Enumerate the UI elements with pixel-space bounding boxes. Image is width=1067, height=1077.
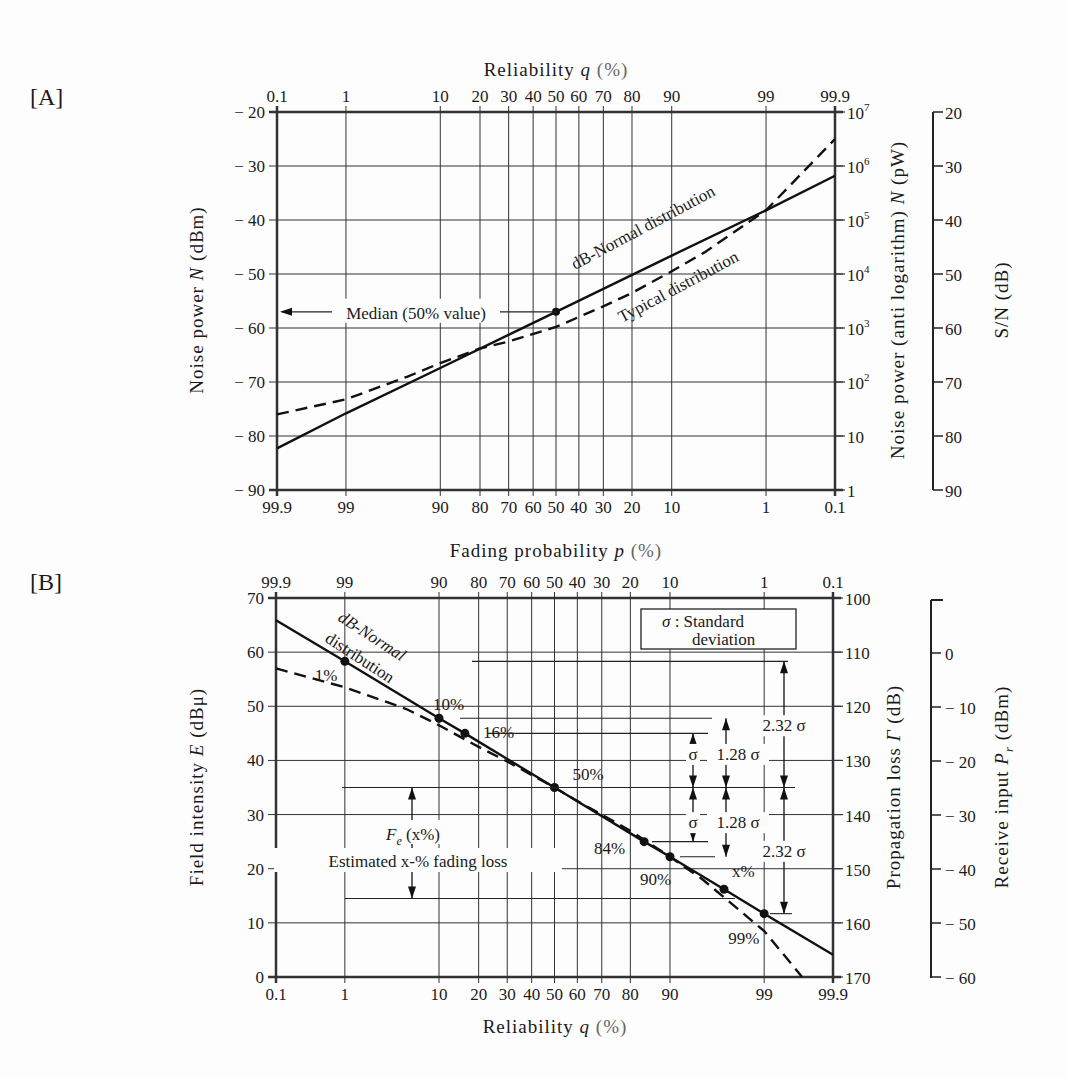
normal-curve-label: dB-Normal distribution bbox=[568, 181, 719, 273]
y-tick-right: 104 bbox=[847, 263, 870, 285]
chart-canvas: [A]0.111020304050607080909999.9Reliabili… bbox=[0, 0, 1067, 1077]
panel-b: [B]99.99990807060504030201010.10.1110203… bbox=[30, 569, 1016, 1038]
panel-a: [A]0.111020304050607080909999.9Reliabili… bbox=[30, 59, 1013, 562]
y-tick-left: − 50 bbox=[234, 265, 265, 284]
x-tick-top: 90 bbox=[663, 87, 680, 106]
y-axis-title-left: Field intensity E (dBμ) bbox=[186, 688, 208, 886]
arrow-icon bbox=[722, 718, 730, 730]
y-tick-pr: − 30 bbox=[945, 807, 976, 826]
marker-label: 84% bbox=[594, 839, 625, 858]
label-2.32-sigma-lower: 2.32 σ bbox=[762, 842, 805, 861]
label-sigma-lower: σ bbox=[688, 813, 697, 832]
y-tick-sn: 60 bbox=[945, 320, 962, 339]
y-tick-right: 106 bbox=[847, 155, 870, 177]
y-tick-right: 150 bbox=[845, 861, 871, 880]
y-axis-title-pr: Receive input Pr (dBm) bbox=[991, 686, 1016, 889]
x-tick-top: 10 bbox=[661, 573, 678, 592]
x-tick-bottom: 0.1 bbox=[265, 985, 286, 1004]
arrow-icon bbox=[408, 788, 416, 800]
y-tick-sn: 90 bbox=[945, 482, 962, 501]
marker-point bbox=[665, 852, 674, 861]
x-tick-bottom: 50 bbox=[548, 498, 565, 517]
x-tick-top: 30 bbox=[593, 573, 610, 592]
median-label: Median (50% value) bbox=[346, 304, 486, 323]
x-tick-top: 99 bbox=[758, 87, 775, 106]
marker-point bbox=[460, 729, 469, 738]
x-tick-bottom: 30 bbox=[595, 498, 612, 517]
arrow-icon bbox=[780, 902, 788, 914]
y-tick-sn: 80 bbox=[945, 428, 962, 447]
x-tick-top: 80 bbox=[623, 87, 640, 106]
marker-point bbox=[435, 714, 444, 723]
arrow-icon bbox=[780, 661, 788, 673]
y-tick-sn: 20 bbox=[945, 104, 962, 123]
marker-point bbox=[720, 885, 729, 894]
y-tick-right: 110 bbox=[845, 644, 870, 663]
marker-point bbox=[760, 909, 769, 918]
x-tick-top: 99 bbox=[336, 573, 353, 592]
x-tick-top: 1 bbox=[342, 87, 351, 106]
x-tick-bottom: 99 bbox=[756, 985, 773, 1004]
arrow-icon bbox=[722, 788, 730, 800]
y-tick-left: − 40 bbox=[234, 211, 265, 230]
y-tick-right: 1 bbox=[847, 482, 856, 501]
y-tick-right: 100 bbox=[845, 590, 871, 609]
y-tick-right: 105 bbox=[847, 209, 870, 231]
label-1.28-sigma-upper: 1.28 σ bbox=[716, 745, 759, 764]
arrow-icon bbox=[722, 776, 730, 788]
y-tick-left: 60 bbox=[247, 643, 264, 662]
x-tick-bottom: 99.9 bbox=[262, 498, 292, 517]
y-tick-right: 140 bbox=[845, 807, 871, 826]
x-tick-bottom: 20 bbox=[623, 498, 640, 517]
y-tick-left: − 70 bbox=[234, 373, 265, 392]
x-tick-top: 1 bbox=[760, 573, 769, 592]
fading-distribution-chart: [A]0.111020304050607080909999.9Reliabili… bbox=[0, 0, 1067, 1077]
y-tick-left: 40 bbox=[247, 751, 264, 770]
x-tick-top: 90 bbox=[431, 573, 448, 592]
y-axis-title-right: Noise power (anti logarithm) N (pW) bbox=[887, 141, 909, 459]
marker-point bbox=[640, 837, 649, 846]
x-tick-bottom: 40 bbox=[570, 498, 587, 517]
y-tick-right: 102 bbox=[847, 371, 870, 393]
label-2.32-sigma-upper: 2.32 σ bbox=[762, 716, 805, 735]
x-tick-top: 40 bbox=[525, 87, 542, 106]
y-tick-left: − 30 bbox=[234, 157, 265, 176]
x-tick-top: 50 bbox=[548, 87, 565, 106]
arrow-icon bbox=[689, 733, 697, 745]
marker-label: 1% bbox=[315, 666, 338, 685]
y-tick-right: 170 bbox=[845, 969, 871, 988]
x-tick-bottom: 1 bbox=[341, 985, 350, 1004]
x-tick-top: 30 bbox=[500, 87, 517, 106]
x-tick-bottom: 30 bbox=[499, 985, 516, 1004]
x-tick-bottom: 40 bbox=[523, 985, 540, 1004]
label-1.28-sigma-lower: 1.28 σ bbox=[716, 813, 759, 832]
y-tick-right: 107 bbox=[847, 101, 870, 123]
x-tick-bottom: 70 bbox=[500, 498, 517, 517]
x-tick-bottom: 10 bbox=[663, 498, 680, 517]
x-tick-bottom: 50 bbox=[546, 985, 563, 1004]
marker-label: 10% bbox=[433, 695, 464, 714]
x-tick-top: 70 bbox=[595, 87, 612, 106]
y-tick-pr: − 40 bbox=[945, 861, 976, 880]
arrow-icon bbox=[780, 776, 788, 788]
y-tick-pr: − 10 bbox=[945, 699, 976, 718]
y-axis-title-left: Noise power N (dBm) bbox=[186, 206, 208, 393]
x-tick-top: 70 bbox=[499, 573, 516, 592]
y-tick-pr: − 60 bbox=[945, 969, 976, 988]
typical-curve-label: Typical distribution bbox=[615, 247, 742, 327]
y-tick-sn: 30 bbox=[945, 158, 962, 177]
marker-label: 50% bbox=[573, 765, 604, 784]
y-axis-title-sn: S/N (dB) bbox=[991, 261, 1013, 338]
sigma-legend-line1: σ : Standard bbox=[662, 612, 745, 631]
x-tick-bottom: 60 bbox=[569, 985, 586, 1004]
x-tick-bottom: 1 bbox=[762, 498, 771, 517]
x-tick-bottom: 60 bbox=[525, 498, 542, 517]
x-tick-top: 80 bbox=[470, 573, 487, 592]
x-tick-bottom: 99 bbox=[337, 498, 354, 517]
x-tick-top: 50 bbox=[546, 573, 563, 592]
y-tick-left: − 80 bbox=[234, 427, 265, 446]
arrow-icon bbox=[780, 788, 788, 800]
x-tick-bottom: 80 bbox=[622, 985, 639, 1004]
x-tick-top: 20 bbox=[472, 87, 489, 106]
y-tick-right: 10 bbox=[847, 428, 864, 447]
